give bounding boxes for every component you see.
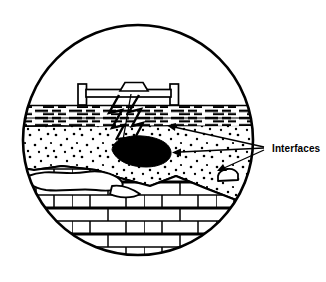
interfaces-label: Interfaces: [272, 143, 321, 154]
equipment-center-block: [120, 83, 148, 92]
layer-asphalt-layer: [10, 105, 280, 128]
pavement-cross-section-diagram: Interfaces: [0, 0, 326, 282]
figure-root: Interfaces: [0, 0, 326, 282]
